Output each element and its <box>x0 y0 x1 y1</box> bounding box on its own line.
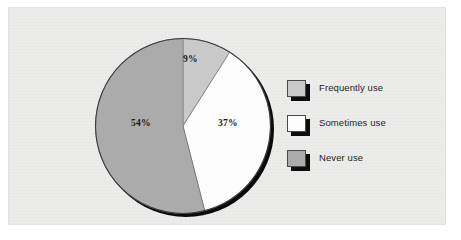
legend-swatch-frequently-use <box>287 80 311 102</box>
pie-slices <box>95 38 270 213</box>
legend-label-sometimes-use: Sometimes use <box>319 117 386 128</box>
legend-swatch-fill <box>287 80 306 97</box>
chart-legend: Frequently use Sometimes use Never use <box>287 78 437 183</box>
legend-item-frequently-use[interactable]: Frequently use <box>287 78 437 113</box>
legend-swatch-never-use <box>287 150 311 172</box>
legend-swatch-fill <box>287 115 306 132</box>
legend-item-never-use[interactable]: Never use <box>287 148 437 183</box>
legend-swatch-fill <box>287 150 306 167</box>
pie-data-label-never-use: 54% <box>131 118 151 128</box>
pie-data-label-frequently-use: 9% <box>183 54 198 64</box>
chart-panel: 9% 37% 54% Frequently use Sometimes use <box>8 7 446 225</box>
pie-chart: 9% 37% 54% <box>87 30 281 224</box>
pie-data-label-sometimes-use: 37% <box>218 118 238 128</box>
figure-root: 9% 37% 54% Frequently use Sometimes use <box>0 0 461 240</box>
legend-label-frequently-use: Frequently use <box>319 82 383 93</box>
legend-label-never-use: Never use <box>319 152 363 163</box>
legend-swatch-sometimes-use <box>287 115 311 137</box>
legend-item-sometimes-use[interactable]: Sometimes use <box>287 113 437 148</box>
